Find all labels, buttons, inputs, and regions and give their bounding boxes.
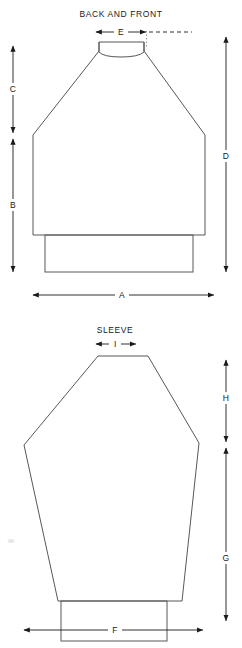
dimension-H-label: H xyxy=(223,393,230,403)
figure-title-back-and-front: BACK AND FRONT xyxy=(79,9,162,19)
dimension-I: I xyxy=(96,338,136,350)
dimension-F-label: F xyxy=(112,625,118,635)
body-hem-rectangle xyxy=(45,235,193,272)
dimension-D-label: D xyxy=(223,151,230,161)
figure-back-and-front: BACK AND FRONT E C xyxy=(6,9,233,301)
figure-sleeve: SLEEVE I H G xyxy=(8,325,234,641)
dimension-C: C xyxy=(6,46,20,133)
technical-drawing-canvas: BACK AND FRONT E C xyxy=(0,0,242,648)
dimension-H: H xyxy=(219,360,233,442)
dimension-B: B xyxy=(6,139,20,272)
sleeve-outline xyxy=(24,356,199,601)
dimension-C-label: C xyxy=(10,84,17,94)
figure-title-sleeve: SLEEVE xyxy=(97,325,134,335)
pattern-diagram: BACK AND FRONT E C xyxy=(0,0,242,648)
scan-artifact-speck xyxy=(8,539,15,543)
dimension-I-label: I xyxy=(114,339,117,349)
neck-band-shape xyxy=(99,42,144,57)
dimension-G: G xyxy=(219,448,233,621)
dimension-D: D xyxy=(219,37,233,272)
dimension-A-label: A xyxy=(119,290,125,300)
dimension-F: F xyxy=(24,624,203,636)
body-outline xyxy=(33,42,205,235)
dimension-G-label: G xyxy=(222,553,229,563)
dimension-A: A xyxy=(33,289,214,301)
dimension-E: E xyxy=(96,26,146,38)
dimension-B-label: B xyxy=(10,200,16,210)
dimension-E-label: E xyxy=(118,27,124,37)
